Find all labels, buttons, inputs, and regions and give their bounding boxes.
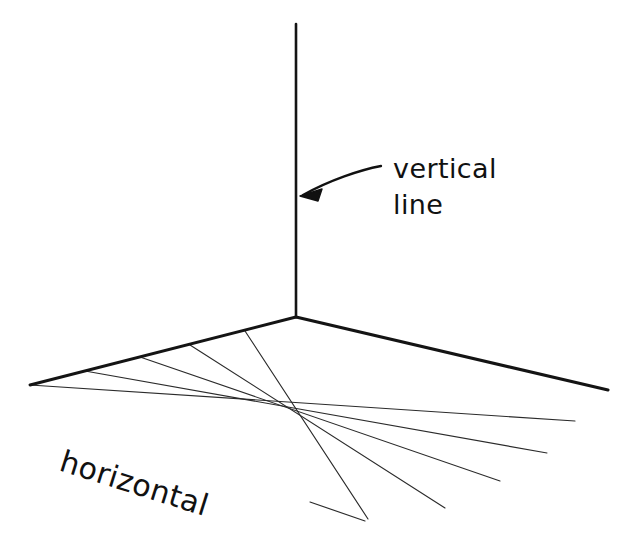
line-diagram-svg: vertical line horizontal (0, 0, 637, 545)
diagram-canvas: vertical line horizontal (0, 0, 637, 545)
vertical-label-line-2: line (393, 189, 443, 220)
vertical-label-line-1: vertical (393, 153, 497, 184)
